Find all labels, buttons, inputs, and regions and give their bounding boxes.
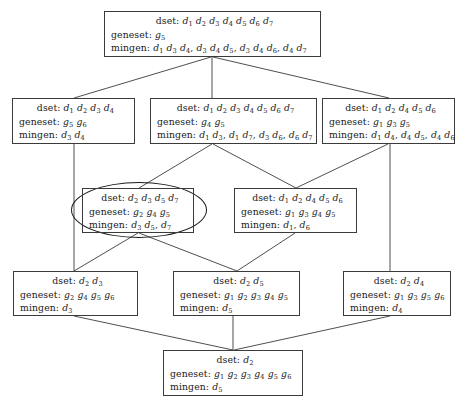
edge-top-to-row2-left <box>74 57 211 98</box>
edge-layer <box>0 0 464 408</box>
node-dset-line: dset: d1 d2 d4 d5 d6 <box>241 192 350 206</box>
node-geneset-line: geneset: g1 g3 g5 <box>329 116 448 130</box>
node-geneset-line: geneset: g1 g2 g3 g4 g5 <box>180 289 293 303</box>
node-row3-left-highlighted[interactable]: dset: d2 d3 d5 d7geneset: g2 g4 g5mingen… <box>82 188 194 233</box>
dset-label: dset: <box>374 275 398 286</box>
geneset-label: geneset: <box>350 289 391 300</box>
node-mingen-line: mingen: d3 d5, d7 <box>89 219 187 233</box>
lattice-diagram: dset: d1 d2 d3 d4 d5 d6 d7geneset: g5min… <box>0 0 464 408</box>
edge-row2right-to-row3right <box>296 144 388 188</box>
node-geneset-line: geneset: g1 g3 g5 g6 <box>350 289 444 303</box>
node-row3-right[interactable]: dset: d1 d2 d4 d5 d6geneset: g1 g3 g4 g5… <box>234 188 357 233</box>
mingen-label: mingen: <box>180 302 219 313</box>
node-dset-line: dset: d2 d3 d5 d7 <box>89 192 187 206</box>
node-mingen-line: mingen: d1, d6 <box>241 219 350 233</box>
geneset-label: geneset: <box>180 289 221 300</box>
dset-value: d1 d2 d4 d5 d6 <box>279 192 343 203</box>
edge-row3right-to-row4mid <box>237 233 295 271</box>
node-mingen-line: mingen: d4 <box>350 302 444 316</box>
node-mingen-line: mingen: d5 <box>180 302 293 316</box>
geneset-value: g5 <box>155 29 165 40</box>
node-dset-line: dset: d2 d3 <box>20 275 131 289</box>
node-mingen-line: mingen: d3 d4 <box>19 129 128 143</box>
edge-row4right-to-bottom <box>234 316 390 350</box>
dset-label: dset: <box>37 102 61 113</box>
edge-top-to-row2-right <box>213 57 389 98</box>
mingen-value: d1 d3 d4, d3 d4 d5, d3 d4 d6, d4 d7 <box>153 42 307 53</box>
node-top[interactable]: dset: d1 d2 d3 d4 d5 d6 d7geneset: g5min… <box>104 11 321 57</box>
mingen-value: d1 d3, d1 d7, d3 d6, d6 d7 <box>199 129 313 140</box>
dset-value: d1 d2 d3 d4 d5 d6 d7 <box>182 15 273 26</box>
node-row4-left[interactable]: dset: d2 d3geneset: g2 g4 g5 g6mingen: d… <box>13 271 138 316</box>
dset-label: dset: <box>216 354 240 365</box>
node-mingen-line: mingen: d1 d3, d1 d7, d3 d6, d6 d7 <box>157 129 310 143</box>
dset-label: dset: <box>52 275 76 286</box>
node-dset-line: dset: d1 d2 d3 d4 d5 d6 d7 <box>111 15 314 29</box>
mingen-value: d5 <box>222 302 232 313</box>
node-dset-line: dset: d2 d4 <box>350 275 444 289</box>
node-mingen-line: mingen: d1 d4, d4 d5, d4 d6 <box>329 129 448 143</box>
mingen-value: d3 d5, d7 <box>131 219 171 230</box>
mingen-value: d1 d4, d4 d5, d4 d6 <box>371 129 455 140</box>
geneset-value: g1 g3 g5 g6 <box>394 289 445 300</box>
dset-label: dset: <box>156 15 180 26</box>
node-row2-middle[interactable]: dset: d1 d2 d3 d4 d5 d6 d7geneset: g4 g5… <box>150 98 317 144</box>
mingen-label: mingen: <box>111 42 150 53</box>
node-dset-line: dset: d1 d2 d4 d5 d6 <box>329 102 448 116</box>
geneset-label: geneset: <box>89 206 130 217</box>
geneset-label: geneset: <box>241 206 282 217</box>
node-row2-left[interactable]: dset: d1 d2 d3 d4geneset: g5 g6mingen: d… <box>12 98 135 144</box>
node-dset-line: dset: d1 d2 d3 d4 <box>19 102 128 116</box>
dset-value: d1 d2 d4 d5 d6 <box>372 102 436 113</box>
mingen-value: d5 <box>212 381 222 392</box>
node-dset-line: dset: d2 <box>170 354 296 368</box>
node-row4-middle[interactable]: dset: d2 d5geneset: g1 g2 g3 g4 g5mingen… <box>173 271 300 316</box>
node-mingen-line: mingen: d1 d3 d4, d3 d4 d5, d3 d4 d6, d4… <box>111 42 314 56</box>
edge-highlight-to-row4left <box>74 233 138 271</box>
geneset-value: g1 g3 g4 g5 <box>285 206 336 217</box>
node-geneset-line: geneset: g1 g3 g4 g5 <box>241 206 350 220</box>
edge-row2mid-to-row3right <box>213 144 296 188</box>
geneset-label: geneset: <box>170 368 211 379</box>
geneset-value: g1 g2 g3 g4 g5 <box>224 289 288 300</box>
mingen-label: mingen: <box>20 302 59 313</box>
node-dset-line: dset: d2 d5 <box>180 275 293 289</box>
dset-value: d2 d3 <box>79 275 103 286</box>
node-geneset-line: geneset: g5 <box>111 29 314 43</box>
geneset-value: g5 g6 <box>63 116 87 127</box>
mingen-value: d3 d4 <box>61 129 85 140</box>
dset-value: d1 d2 d3 d4 <box>64 102 115 113</box>
dset-value: d1 d2 d3 d4 d5 d6 d7 <box>203 102 294 113</box>
dset-value: d2 d3 d5 d7 <box>128 192 179 203</box>
node-geneset-line: geneset: g2 g4 g5 <box>89 206 187 220</box>
node-bottom[interactable]: dset: d2geneset: g1 g2 g3 g4 g5 g6mingen… <box>163 350 303 396</box>
node-dset-line: dset: d1 d2 d3 d4 d5 d6 d7 <box>157 102 310 116</box>
geneset-value: g4 g5 <box>201 116 225 127</box>
mingen-value: d3 <box>62 302 72 313</box>
dset-value: d2 <box>243 354 253 365</box>
geneset-label: geneset: <box>157 116 198 127</box>
geneset-label: geneset: <box>111 29 152 40</box>
geneset-value: g2 g4 g5 <box>133 206 170 217</box>
node-geneset-line: geneset: g4 g5 <box>157 116 310 130</box>
mingen-value: d4 <box>392 302 402 313</box>
edge-highlight-to-row4mid <box>139 233 237 271</box>
node-mingen-line: mingen: d5 <box>170 381 296 395</box>
geneset-value: g2 g4 g5 g6 <box>64 289 115 300</box>
mingen-label: mingen: <box>170 381 209 392</box>
mingen-label: mingen: <box>350 302 389 313</box>
dset-value: d2 d4 <box>400 275 424 286</box>
geneset-label: geneset: <box>20 289 61 300</box>
dset-label: dset: <box>101 192 125 203</box>
node-geneset-line: geneset: g1 g2 g3 g4 g5 g6 <box>170 368 296 382</box>
node-row4-right[interactable]: dset: d2 d4geneset: g1 g3 g5 g6mingen: d… <box>343 271 451 316</box>
mingen-label: mingen: <box>157 129 196 140</box>
dset-label: dset: <box>345 102 369 113</box>
geneset-value: g1 g3 g5 <box>373 116 410 127</box>
dset-label: dset: <box>252 192 276 203</box>
node-row2-right[interactable]: dset: d1 d2 d4 d5 d6geneset: g1 g3 g5min… <box>322 98 455 144</box>
node-mingen-line: mingen: d3 <box>20 302 131 316</box>
mingen-label: mingen: <box>89 219 128 230</box>
dset-label: dset: <box>213 275 237 286</box>
dset-value: d2 d5 <box>240 275 264 286</box>
